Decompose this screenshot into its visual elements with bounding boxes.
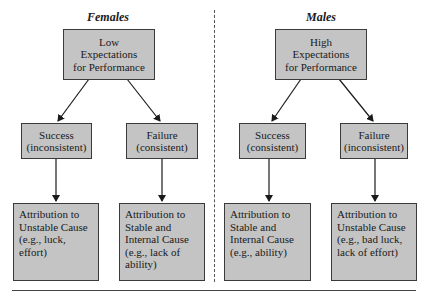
outcome-box-males-success: Success (consistent): [239, 123, 306, 159]
outcome-label: Failure: [127, 129, 197, 142]
attribution-line: Unstable Cause: [337, 221, 416, 234]
arrow-females-to-failure: [127, 79, 160, 121]
outcome-box-females-failure: Failure (consistent): [126, 123, 198, 159]
outcome-box-females-success: Success (inconsistent): [21, 123, 92, 159]
attribution-line: effort): [19, 246, 98, 259]
arrow-females-to-success: [58, 79, 89, 121]
attribution-line: Stable and: [125, 221, 204, 234]
arrow-males-to-failure: [339, 79, 373, 121]
attribution-line: Attribution to: [19, 208, 98, 221]
expectation-box-females: Low Expectations for Performance: [63, 29, 155, 80]
expectation-line: for Performance: [276, 61, 366, 74]
attribution-line: Attribution to: [125, 208, 204, 221]
panel-title-males: Males: [261, 10, 381, 25]
panel-divider: [214, 10, 215, 282]
attribution-line: Stable and: [230, 221, 310, 234]
attribution-line: Attribution to: [337, 208, 416, 221]
bottom-rule: [12, 290, 416, 291]
attribution-box-males-failure: Attribution to Unstable Cause (e.g., bad…: [331, 203, 417, 281]
attribution-line: (e.g., luck,: [19, 233, 98, 246]
attribution-line: Unstable Cause: [19, 221, 98, 234]
attribution-line: (e.g., bad luck,: [337, 233, 416, 246]
attribution-line: (e.g., lack of: [125, 246, 204, 259]
outcome-consistency: (consistent): [127, 141, 197, 154]
outcome-consistency: (inconsistent): [341, 141, 407, 154]
expectation-line: Expectations: [276, 48, 366, 61]
outcome-consistency: (consistent): [240, 141, 305, 154]
panel-title-females: Females: [48, 10, 168, 25]
attribution-line: Attribution to: [230, 208, 310, 221]
expectation-line: Expectations: [64, 48, 154, 61]
attribution-box-females-success: Attribution to Unstable Cause (e.g., luc…: [13, 203, 99, 281]
attribution-line: Internal Cause: [125, 233, 204, 246]
expectation-line: Low: [64, 36, 154, 49]
outcome-label: Success: [22, 129, 91, 142]
attribution-line: lack of effort): [337, 246, 416, 259]
expectation-box-males: High Expectations for Performance: [275, 29, 367, 80]
outcome-label: Failure: [341, 129, 407, 142]
outcome-box-males-failure: Failure (inconsistent): [340, 123, 408, 159]
attribution-box-females-failure: Attribution to Stable and Internal Cause…: [119, 203, 205, 281]
attribution-line: ability): [125, 258, 204, 271]
outcome-label: Success: [240, 129, 305, 142]
attribution-line: (e.g., ability): [230, 246, 310, 259]
expectation-line: High: [276, 36, 366, 49]
expectation-line: for Performance: [64, 61, 154, 74]
attribution-line: Internal Cause: [230, 233, 310, 246]
arrow-males-to-success: [272, 79, 301, 121]
outcome-consistency: (inconsistent): [22, 141, 91, 154]
attribution-box-males-success: Attribution to Stable and Internal Cause…: [224, 203, 311, 281]
